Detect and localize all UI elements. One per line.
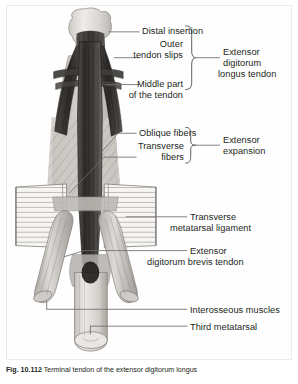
label-outer-tendon-slips-line2: tendon slips [87, 50, 183, 61]
label-transverse-fibers-line1: Transverse [91, 141, 184, 152]
label-tm-ligament-line2: metatarsal ligament [170, 223, 251, 234]
label-transverse-fibers-line2: fibers [91, 152, 184, 163]
label-middle-part-line1: Middle part [87, 79, 183, 90]
third-metatarsal [75, 272, 108, 351]
figure-plate: Distal insertion Outer tendon slips Midd… [6, 5, 292, 360]
label-extensor-expansion-line1: Extensor [223, 135, 260, 146]
caption-number: Fig. 10.112 [6, 366, 42, 374]
label-extensor-expansion-line2: expansion [223, 146, 265, 157]
expansion-lower-edge [53, 197, 119, 211]
label-middle-part-line2: of the tendon [87, 90, 183, 101]
label-edl-tendon-line2: digitorum [223, 58, 261, 69]
label-outer-tendon-slips-line1: Outer [87, 39, 183, 50]
label-oblique-fibers: Oblique fibers [139, 128, 196, 139]
caption-text: Terminal tendon of the extensor digitoru… [44, 366, 197, 374]
label-edl-tendon-line3: longus tendon [218, 69, 276, 80]
anatomy-figure: Distal insertion Outer tendon slips Midd… [0, 0, 298, 384]
braces [186, 26, 196, 163]
label-distal-insertion: Distal insertion [142, 26, 203, 37]
label-third-metatarsal: Third metatarsal [190, 322, 257, 333]
figure-caption: Fig. 10.112 Terminal tendon of the exten… [6, 366, 292, 383]
label-edb-tendon-line1: Extensor [190, 246, 227, 257]
label-tm-ligament-line1: Transverse [190, 212, 236, 223]
tendon-terminal [81, 262, 99, 284]
label-edl-tendon-line1: Extensor [223, 47, 260, 58]
label-interosseous-muscles: Interosseous muscles [190, 305, 280, 316]
label-edb-tendon-line2: digitorum brevis tendon [147, 257, 244, 268]
